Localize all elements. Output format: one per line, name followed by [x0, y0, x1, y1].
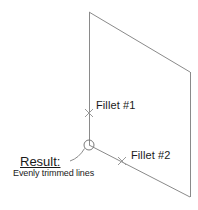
result-leader-line	[70, 149, 85, 162]
result-title-label: Result:	[20, 155, 60, 168]
fillet-1-label: Fillet #1	[96, 100, 135, 111]
top-slanted-edge	[89, 12, 190, 72]
cad-diagram: Fillet #1 Fillet #2 Result: Evenly trimm…	[0, 0, 198, 210]
fillet-2-label: Fillet #2	[131, 150, 170, 161]
result-description-label: Evenly trimmed lines	[13, 169, 94, 178]
